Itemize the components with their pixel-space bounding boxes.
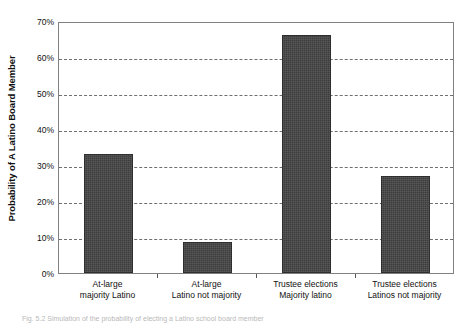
y-axis-tick-label: 20% xyxy=(37,197,54,207)
bar xyxy=(381,176,430,273)
x-axis-category-label-line2: Latinos not majority xyxy=(355,290,454,301)
y-axis-tick-label: 10% xyxy=(37,233,54,243)
x-axis-category-label-line2: Majority latino xyxy=(256,290,355,301)
y-axis-tick-label: 60% xyxy=(37,53,54,63)
y-axis-title: Probability of A Latino Board Member xyxy=(0,0,22,276)
x-axis-tick xyxy=(256,274,257,278)
y-axis-tick-label: 30% xyxy=(37,161,54,171)
figure: Probability of A Latino Board Member 0%1… xyxy=(0,0,472,325)
y-axis-tick-label: 0% xyxy=(42,269,54,279)
y-axis-tick-label: 50% xyxy=(37,89,54,99)
bar xyxy=(282,35,331,273)
gridline xyxy=(59,131,453,132)
gridline xyxy=(59,59,453,60)
x-axis-category-label-line2: majority Latino xyxy=(58,290,157,301)
x-axis-category-label-line1: At-large xyxy=(58,279,157,290)
plot-area xyxy=(58,22,454,274)
bar xyxy=(84,154,133,273)
x-axis-category-label: Trustee electionsLatinos not majority xyxy=(355,279,454,301)
gridline xyxy=(59,95,453,96)
y-axis-tick-label: 70% xyxy=(37,17,54,27)
x-axis-category-label: Trustee electionsMajority latino xyxy=(256,279,355,301)
x-axis-category-label-line2: Latino not majority xyxy=(157,290,256,301)
y-axis-title-text: Probability of A Latino Board Member xyxy=(6,55,17,221)
y-axis-tick-labels: 0%10%20%30%40%50%60%70% xyxy=(22,0,58,325)
x-axis-category-labels: At-largemajority LatinoAt-largeLatino no… xyxy=(58,279,454,309)
x-axis-tick xyxy=(157,274,158,278)
x-axis-category-label: At-largeLatino not majority xyxy=(157,279,256,301)
y-axis-tick-label: 40% xyxy=(37,125,54,135)
figure-caption: Fig. 5.2 Simulation of the probability o… xyxy=(22,314,454,323)
x-axis-category-label-line1: Trustee elections xyxy=(256,279,355,290)
x-axis-category-label: At-largemajority Latino xyxy=(58,279,157,301)
x-axis-category-label-line1: Trustee elections xyxy=(355,279,454,290)
bar xyxy=(183,242,232,273)
x-axis-category-label-line1: At-large xyxy=(157,279,256,290)
x-axis-tick xyxy=(355,274,356,278)
